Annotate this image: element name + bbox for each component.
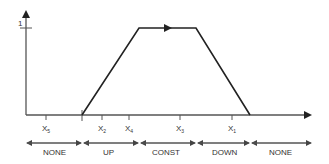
svg-text:X5: X5 <box>42 124 50 134</box>
segment-down: DOWN <box>198 143 249 157</box>
x-tick-x4: X4 <box>125 115 133 134</box>
segment-up: UP <box>84 143 138 157</box>
svg-text:DOWN: DOWN <box>212 148 238 157</box>
direction-arrow-icon <box>164 24 172 32</box>
x-tick-x3: X3 <box>176 115 184 134</box>
segment-const: CONST <box>141 143 195 157</box>
segment-none-right: NONE <box>252 143 311 157</box>
svg-text:CONST: CONST <box>152 148 180 157</box>
svg-text:X2: X2 <box>98 124 106 134</box>
x-axis <box>26 110 310 121</box>
svg-text:X4: X4 <box>125 124 133 134</box>
segment-ranges: NONE UP CONST DOWN NONE <box>27 143 311 157</box>
y-axis: 1 <box>18 12 32 115</box>
velocity-profile <box>82 24 250 115</box>
segment-none-left: NONE <box>27 143 81 157</box>
svg-text:UP: UP <box>103 148 114 157</box>
svg-text:NONE: NONE <box>269 148 292 157</box>
svg-text:X3: X3 <box>176 124 184 134</box>
x-tick-x5: X5 <box>42 115 50 134</box>
x-tick-x2: X2 <box>98 115 106 134</box>
y-tick-label: 1 <box>18 19 23 28</box>
x-ticks: X5 X2 X4 X3 X1 <box>42 115 236 134</box>
svg-text:NONE: NONE <box>43 148 66 157</box>
svg-text:X1: X1 <box>228 124 236 134</box>
trapezoid-profile-diagram: 1 X5 X2 X4 X3 X1 <box>0 0 329 164</box>
x-tick-x1: X1 <box>228 115 236 134</box>
